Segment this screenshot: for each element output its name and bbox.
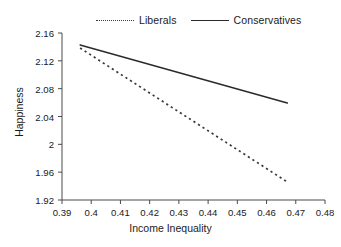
series-line-conservatives xyxy=(80,45,287,103)
x-axis-ticks xyxy=(62,200,325,204)
x-axis-tick-label: 0.42 xyxy=(140,207,159,218)
x-axis-tick-label: 0.41 xyxy=(111,207,130,218)
y-axis-tick-label: 1.96 xyxy=(14,167,54,178)
x-axis-tick-label: 0.46 xyxy=(257,207,276,218)
x-axis-tick-label: 0.47 xyxy=(286,207,305,218)
x-axis-tick-label: 0.48 xyxy=(316,207,335,218)
x-axis-tick-label: 0.43 xyxy=(170,207,189,218)
data-series-layer xyxy=(80,45,287,182)
y-axis-tick-label: 1.92 xyxy=(14,195,54,206)
x-axis-tick-label: 0.39 xyxy=(53,207,72,218)
y-axis-tick-label: 2.16 xyxy=(14,28,54,39)
x-axis-tick-label: 0.45 xyxy=(228,207,247,218)
chart-figure: Liberals Conservatives 1.921.9622.042.08… xyxy=(0,0,341,247)
axis-lines xyxy=(62,33,325,200)
x-axis-tick-label: 0.44 xyxy=(199,207,218,218)
x-axis-tick-label: 0.4 xyxy=(85,207,98,218)
y-axis-ticks xyxy=(58,33,62,200)
series-line-liberals xyxy=(80,48,287,182)
y-axis-title: Happiness xyxy=(13,57,25,167)
x-axis-title: Income Inequality xyxy=(0,222,341,234)
